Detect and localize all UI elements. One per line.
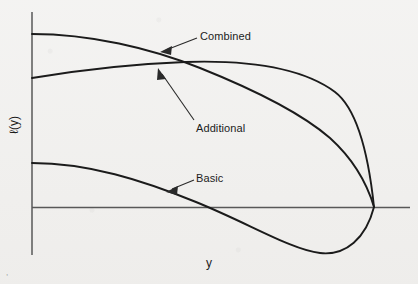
y-axis-title: ℓ(y) bbox=[7, 103, 21, 147]
figure-root: Combined Additional Basic ℓ(y) y , bbox=[0, 0, 418, 284]
page-corner-mark: , bbox=[6, 268, 8, 277]
series-label-additional: Additional bbox=[196, 122, 245, 134]
leader-line-additional bbox=[162, 74, 194, 120]
series-label-combined: Combined bbox=[200, 30, 251, 42]
plot-canvas bbox=[0, 0, 418, 284]
curve-additional bbox=[32, 62, 374, 207]
x-axis-title: y bbox=[206, 256, 212, 270]
leader-arrowhead-additional bbox=[157, 68, 166, 80]
series-label-basic: Basic bbox=[196, 172, 223, 184]
